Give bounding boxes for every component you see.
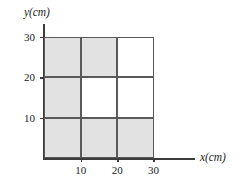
grid-plot-area: [44, 37, 154, 158]
y-tick-mark-30: [40, 37, 44, 38]
y-tick-label-30: 30: [13, 31, 35, 43]
grid-cell-x10-20-y20-30: [81, 37, 118, 77]
x-tick-mark-10: [81, 158, 82, 162]
grid-cell-x10-20-y10-20: [81, 77, 118, 117]
x-tick-mark-20: [117, 158, 118, 162]
x-tick-label-10: 10: [70, 164, 92, 176]
y-tick-label-20: 20: [13, 71, 35, 83]
x-axis-title: x(cm): [200, 151, 226, 163]
grid-cell-x0-10-y20-30: [44, 37, 81, 77]
grid-cell-x20-30-y0-10: [117, 118, 154, 158]
x-tick-label-20: 20: [106, 164, 128, 176]
x-tick-mark-30: [153, 158, 154, 162]
y-tick-mark-20: [40, 77, 44, 78]
y-tick-mark-10: [40, 118, 44, 119]
grid-cell-x0-10-y0-10: [44, 118, 81, 158]
grid-cell-x10-20-y0-10: [81, 118, 118, 158]
y-axis-title: y(cm): [24, 6, 50, 18]
x-axis-line: [43, 158, 195, 160]
x-tick-label-30: 30: [142, 164, 164, 176]
grid-cell-x0-10-y10-20: [44, 77, 81, 117]
coordinate-grid-figure: y(cm) x(cm) 30 20 10 10 20 30: [0, 0, 238, 188]
grid-cell-x20-30-y20-30: [117, 37, 154, 77]
y-tick-label-10: 10: [13, 112, 35, 124]
grid-cell-x20-30-y10-20: [117, 77, 154, 117]
